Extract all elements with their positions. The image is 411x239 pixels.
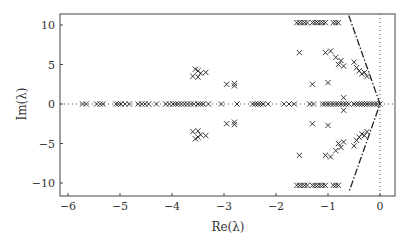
eigenvalue-marker <box>310 82 315 87</box>
eigenvalue-marker <box>302 183 307 188</box>
eigenvalue-marker <box>294 183 299 188</box>
eigenvalue-marker <box>224 82 229 87</box>
eigenvalue-scatter-chart: −6−5−4−3−2−10−10−50510 Re(λ) Im(λ) <box>0 0 411 239</box>
eigenvalue-marker <box>299 183 304 188</box>
y-tick-label: 10 <box>41 19 55 32</box>
eigenvalue-marker <box>113 101 118 106</box>
y-tick-label: 0 <box>48 98 55 111</box>
eigenvalue-marker <box>323 20 328 25</box>
eigenvalue-marker <box>341 95 346 100</box>
eigenvalue-marker <box>341 63 346 68</box>
x-tick-label: 0 <box>377 200 384 213</box>
eigenvalue-marker <box>170 101 175 106</box>
eigenvalue-marker <box>341 101 346 106</box>
eigenvalue-marker <box>325 101 330 106</box>
eigenvalue-marker <box>320 183 325 188</box>
eigenvalue-marker <box>323 101 328 106</box>
eigenvalue-marker <box>154 101 159 106</box>
eigenvalue-marker <box>190 74 195 79</box>
eigenvalue-marker <box>362 101 367 106</box>
eigenvalue-marker <box>375 101 380 106</box>
eigenvalue-marker <box>333 148 338 153</box>
eigenvalue-marker <box>336 183 341 188</box>
eigenvalue-marker <box>331 101 336 106</box>
eigenvalue-marker <box>333 101 338 106</box>
eigenvalue-marker <box>297 20 302 25</box>
x-tick-label: −2 <box>268 200 284 213</box>
eigenvalue-marker <box>354 101 359 106</box>
eigenvalue-marker <box>253 101 258 106</box>
eigenvalue-marker <box>173 101 178 106</box>
eigenvalue-marker <box>224 121 229 126</box>
eigenvalue-marker <box>312 20 317 25</box>
eigenvalue-marker <box>325 123 330 128</box>
eigenvalue-marker <box>323 183 328 188</box>
y-tick-label: 5 <box>48 59 55 72</box>
eigenvalue-marker <box>346 101 351 106</box>
eigenvalue-marker <box>255 101 260 106</box>
eigenvalue-marker <box>190 129 195 134</box>
eigenvalue-marker <box>312 183 317 188</box>
eigenvalue-marker <box>310 121 315 126</box>
eigenvalue-marker <box>341 108 346 113</box>
eigenvalue-marker <box>219 101 224 106</box>
eigenvalue-marker <box>146 101 151 106</box>
eigenvalue-marker <box>359 101 364 106</box>
eigenvalue-marker <box>201 101 206 106</box>
eigenvalue-marker <box>305 20 310 25</box>
eigenvalue-marker <box>351 60 356 65</box>
eigenvalue-marker <box>234 101 239 106</box>
eigenvalue-marker <box>333 55 338 60</box>
eigenvalue-marker <box>297 153 302 158</box>
y-axis-label: Im(λ) <box>15 87 29 120</box>
eigenvalue-marker <box>315 183 320 188</box>
eigenvalue-marker <box>98 101 103 106</box>
y-tick-label: −10 <box>32 177 55 190</box>
eigenvalue-marker <box>206 101 211 106</box>
eigenvalue-marker <box>311 101 316 106</box>
x-tick-label: −6 <box>60 200 76 213</box>
eigenvalue-marker <box>323 153 328 158</box>
eigenvalue-marker <box>318 183 323 188</box>
eigenvalue-marker <box>294 20 299 25</box>
eigenvalue-marker <box>331 20 336 25</box>
eigenvalue-marker <box>315 20 320 25</box>
eigenvalue-marker <box>367 101 372 106</box>
eigenvalue-marker <box>328 48 333 53</box>
eigenvalue-marker <box>370 101 375 106</box>
eigenvalue-marker <box>302 20 307 25</box>
eigenvalue-marker <box>325 80 330 85</box>
eigenvalue-marker <box>357 101 362 106</box>
eigenvalue-marker <box>328 154 333 159</box>
eigenvalue-marker <box>333 183 338 188</box>
eigenvalue-marker <box>266 101 271 106</box>
eigenvalue-marker <box>203 133 208 138</box>
eigenvalue-marker <box>297 50 302 55</box>
eigenvalue-marker <box>331 183 336 188</box>
eigenvalue-marker <box>127 101 132 106</box>
eigenvalue-marker <box>258 101 263 106</box>
y-tick-label: −5 <box>39 138 55 151</box>
eigenvalue-marker <box>310 20 315 25</box>
plot-area <box>60 14 395 196</box>
eigenvalue-marker <box>333 20 338 25</box>
x-tick-label: −3 <box>216 200 232 213</box>
eigenvalue-marker <box>338 101 343 106</box>
eigenvalue-marker <box>323 50 328 55</box>
eigenvalue-marker <box>198 101 203 106</box>
eigenvalue-marker <box>250 101 255 106</box>
eigenvalue-marker <box>286 101 291 106</box>
x-tick-label: −5 <box>112 200 128 213</box>
eigenvalue-marker <box>341 139 346 144</box>
eigenvalue-marker <box>203 70 208 75</box>
x-tick-label: −4 <box>164 200 180 213</box>
eigenvalue-marker <box>297 183 302 188</box>
eigenvalue-marker <box>310 183 315 188</box>
x-axis-label: Re(λ) <box>211 220 244 234</box>
eigenvalue-marker <box>336 20 341 25</box>
eigenvalue-marker <box>318 20 323 25</box>
eigenvalue-marker <box>351 143 356 148</box>
eigenvalue-marker <box>305 183 310 188</box>
eigenvalue-marker <box>320 20 325 25</box>
x-tick-label: −1 <box>320 200 336 213</box>
